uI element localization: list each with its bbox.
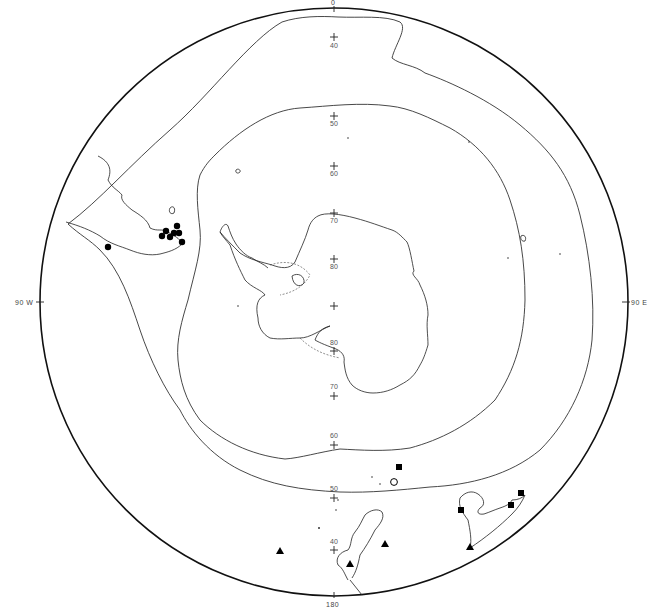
site-marker-circle[interactable]: [176, 230, 182, 236]
lat-label-70-upper: 70: [330, 217, 338, 224]
cross-70s: [330, 392, 338, 400]
islet: [507, 257, 509, 259]
berkner-island: [292, 274, 304, 285]
site-marker-circle[interactable]: [167, 234, 173, 240]
site-marker-triangle[interactable]: [276, 547, 284, 554]
marker-group-triangles: [276, 540, 474, 567]
site-marker-square[interactable]: [483, 492, 487, 496]
australia-coastline: [459, 492, 525, 548]
lat-label-50-upper: 50: [330, 120, 338, 127]
cross-60s: [330, 441, 338, 449]
site-marker-open-circle[interactable]: [391, 479, 398, 486]
lat-label-40-upper: 40: [330, 42, 338, 49]
antarctica-coastline: [220, 214, 428, 393]
islet: [468, 141, 470, 143]
cross-40n: [330, 33, 338, 41]
site-marker-square[interactable]: [508, 502, 514, 508]
falkland-islands: [169, 207, 174, 214]
site-marker-square[interactable]: [396, 464, 402, 470]
graticule-lower: 80 70 60 50 40: [330, 339, 338, 554]
islet: [318, 527, 320, 529]
lat-label-40-lower: 40: [330, 538, 338, 545]
south-pole-cross: [330, 302, 338, 310]
site-marker-square[interactable]: [458, 507, 464, 513]
cross-80n: [330, 255, 338, 263]
islet: [335, 509, 337, 511]
islet: [237, 305, 239, 307]
label-180-meridian: 180: [326, 601, 339, 608]
site-marker-circle[interactable]: [174, 223, 180, 229]
islet: [347, 137, 349, 139]
site-marker-square[interactable]: [518, 490, 524, 496]
cross-50s: [330, 494, 338, 502]
new-zealand-south-island: [337, 510, 383, 580]
cross-60n: [330, 162, 338, 170]
lat-label-80-lower: 80: [330, 339, 338, 346]
lat-label-60-upper: 60: [330, 170, 338, 177]
lat-label-50-lower: 50: [330, 485, 338, 492]
antarctic-convergence-line: [178, 104, 525, 459]
site-marker-circle[interactable]: [163, 228, 169, 234]
cross-80s: [330, 347, 338, 355]
site-marker-triangle[interactable]: [381, 540, 389, 547]
graticule-upper: 40 50 60 70 80: [330, 33, 338, 270]
cross-40s: [330, 546, 338, 554]
small-islands: [237, 137, 561, 529]
cross-70n: [330, 209, 338, 217]
cross-50n: [330, 112, 338, 120]
site-marker-circle[interactable]: [179, 239, 185, 245]
label-90e-meridian: 90 E: [631, 299, 647, 306]
site-marker-circle[interactable]: [105, 244, 111, 250]
label-90w-meridian: 90 W: [15, 299, 33, 306]
site-marker-triangle[interactable]: [346, 560, 354, 567]
site-marker-circle[interactable]: [159, 233, 165, 239]
marker-group-circles: [105, 223, 185, 250]
islet: [559, 253, 561, 255]
new-zealand-north-island: [350, 580, 362, 595]
lat-label-70-lower: 70: [330, 383, 338, 390]
label-0-meridian: 0: [331, 0, 335, 6]
islet: [371, 476, 373, 478]
islet: [337, 499, 339, 501]
polar-map: 0 180 90 W 90 E 40 50 60 70 80 80: [0, 0, 658, 608]
lat-label-80-upper: 80: [330, 263, 338, 270]
south-atlantic-island: [236, 169, 240, 173]
antarctic-peninsula: [220, 224, 268, 268]
lat-label-60-lower: 60: [330, 432, 338, 439]
islet: [379, 483, 381, 485]
south-america-coastline: [66, 156, 182, 255]
kerguelen-island: [521, 235, 526, 241]
